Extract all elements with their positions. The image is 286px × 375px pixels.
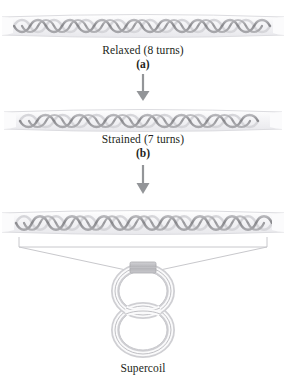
- arrow-relaxed-to-strained: [0, 74, 286, 102]
- supercoil-figure: [0, 258, 286, 358]
- caption-strained: Strained (7 turns): [0, 133, 286, 145]
- caption-supercoil: Supercoil: [0, 362, 286, 374]
- caption-relaxed: Relaxed (8 turns): [0, 44, 286, 56]
- panel-letter-b: (b): [0, 147, 286, 159]
- arrow-down-icon: [133, 74, 153, 102]
- panel-letter-a: (a): [0, 58, 286, 70]
- helix-relaxed: [0, 8, 286, 44]
- arrow-strained-to-supercoil: [0, 165, 286, 195]
- figure-canvas: Relaxed (8 turns) (a): [0, 0, 286, 375]
- helix-relaxed-svg: [0, 8, 286, 44]
- arrow-down-icon: [133, 165, 153, 195]
- supercoil-svg: [88, 258, 198, 358]
